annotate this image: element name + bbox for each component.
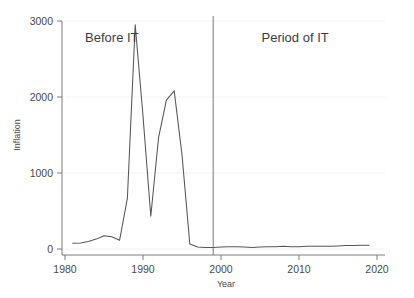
y-tick-label: 0	[47, 243, 53, 255]
y-axis-ticks: 0100020003000	[30, 15, 62, 255]
x-axis-ticks: 19801990200020102020	[53, 255, 389, 275]
series-group	[73, 25, 369, 248]
y-axis: 0100020003000	[30, 15, 62, 255]
y-tick-label: 1000	[30, 167, 54, 179]
chart-svg: 0100020003000 19801990200020102020 Befor…	[0, 0, 414, 298]
inflation-series-line	[73, 25, 369, 248]
x-tick-label: 1980	[53, 263, 77, 275]
y-axis-title: Inflation	[12, 119, 22, 151]
x-tick-label: 1990	[131, 263, 155, 275]
gridlines	[65, 21, 385, 249]
y-tick-label: 3000	[30, 15, 54, 27]
inflation-chart: 0100020003000 19801990200020102020 Befor…	[0, 0, 414, 298]
x-axis-title: Year	[217, 279, 235, 289]
x-tick-label: 2010	[287, 263, 311, 275]
y-tick-label: 2000	[30, 91, 54, 103]
annotation-before-it: Before IT	[85, 30, 139, 45]
x-tick-label: 2020	[365, 263, 389, 275]
x-tick-label: 2000	[209, 263, 233, 275]
x-axis: 19801990200020102020	[53, 255, 389, 275]
annotation-period-of-it: Period of IT	[261, 30, 328, 45]
